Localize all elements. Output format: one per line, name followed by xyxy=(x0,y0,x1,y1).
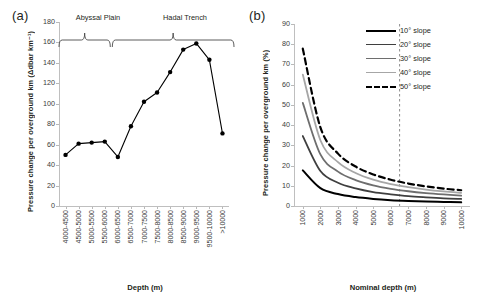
data-point xyxy=(155,90,159,94)
panel-b: (b) Pressure change per overground km (%… xyxy=(239,0,478,301)
panel-b-x-axis-title: Nominal depth (m) xyxy=(294,283,472,292)
y-tick-label: 140 xyxy=(34,59,55,66)
x-tick-label: 6000-6500 xyxy=(114,210,121,243)
legend-swatch xyxy=(366,86,396,88)
x-tick-label: 9000-9500 xyxy=(193,210,200,243)
x-tick-label: 7000-7500 xyxy=(141,210,148,243)
panel-a-x-axis-line xyxy=(59,206,229,207)
brace xyxy=(112,33,234,47)
x-tick-label: 5500-6000 xyxy=(101,210,108,243)
x-tick-label: 1000 xyxy=(299,210,306,226)
series-line xyxy=(303,136,461,199)
y-tick-label: 60 xyxy=(271,81,290,88)
panel-b-legend: 10° slope20° slope30° slope40° slope50° … xyxy=(366,24,471,94)
legend-swatch xyxy=(366,30,396,32)
legend-label: 50° slope xyxy=(400,80,431,94)
y-tick-label: 80 xyxy=(34,121,55,128)
y-tick-label: 30 xyxy=(271,142,290,149)
annotation-label-hadal-trench: Hadal Trench xyxy=(140,13,230,22)
brace xyxy=(59,33,110,47)
legend-item: 40° slope xyxy=(366,66,471,80)
data-point xyxy=(63,153,67,157)
y-tick-label: 100 xyxy=(34,100,55,107)
legend-label: 30° slope xyxy=(400,52,431,66)
legend-item: 10° slope xyxy=(366,24,471,38)
x-tick-label: 7000 xyxy=(405,210,412,226)
legend-item: 30° slope xyxy=(366,52,471,66)
x-tick-label: 4500-5000 xyxy=(75,210,82,243)
figure-container: (a) Pressure change per overground km (Δ… xyxy=(0,0,478,301)
y-tick-label: 40 xyxy=(271,122,290,129)
x-tick-label: 10000 xyxy=(458,210,465,229)
legend-swatch xyxy=(366,72,396,73)
x-tick-label: 7500-8000 xyxy=(154,210,161,243)
panel-a: (a) Pressure change per overground km (Δ… xyxy=(0,0,239,301)
x-tick-label: 4000 xyxy=(352,210,359,226)
y-tick-label: 60 xyxy=(34,141,55,148)
y-tick-label: 180 xyxy=(34,18,55,25)
x-tick-label: 4000-4500 xyxy=(62,210,69,243)
x-tick-label: 8000-8500 xyxy=(167,210,174,243)
x-tick-label: 5000-5500 xyxy=(88,210,95,243)
legend-label: 10° slope xyxy=(400,24,431,38)
y-tick-label: 0 xyxy=(271,202,290,209)
legend-item: 50° slope xyxy=(366,80,471,94)
x-tick-label: >10000 xyxy=(219,210,226,234)
y-tick-label: 0 xyxy=(34,202,55,209)
y-tick-label: 80 xyxy=(271,41,290,48)
data-point xyxy=(220,131,224,135)
legend-label: 40° slope xyxy=(400,66,431,80)
data-point xyxy=(103,139,107,143)
panel-b-letter: (b) xyxy=(249,8,266,23)
x-tick-label: 9000 xyxy=(440,210,447,226)
panel-a-x-axis-title: Depth (m) xyxy=(59,283,231,292)
y-tick-label: 20 xyxy=(271,162,290,169)
panel-a-letter: (a) xyxy=(12,8,29,23)
y-tick-label: 20 xyxy=(34,182,55,189)
data-point xyxy=(129,124,133,128)
panel-b-x-axis-line xyxy=(294,206,470,207)
legend-swatch xyxy=(366,58,396,59)
y-tick-label: 90 xyxy=(271,20,290,27)
y-tick-label: 70 xyxy=(271,61,290,68)
annotation-label-abyssal-plain: Abyssal Plain xyxy=(60,13,136,22)
data-point xyxy=(89,140,93,144)
data-point xyxy=(142,100,146,104)
x-tick-label: 2000 xyxy=(317,210,324,226)
legend-label: 20° slope xyxy=(400,38,431,52)
x-tick-label: 9500-10000 xyxy=(206,210,213,247)
y-tick-label: 40 xyxy=(34,162,55,169)
x-tick-label: 8500-9000 xyxy=(180,210,187,243)
x-tick-label: 6000 xyxy=(387,210,394,226)
panel-a-brace-annotations xyxy=(59,28,235,50)
x-tick-label: 6500-7000 xyxy=(127,210,134,243)
data-point xyxy=(76,141,80,145)
data-point xyxy=(207,58,211,62)
data-point xyxy=(168,70,172,74)
legend-swatch xyxy=(366,44,396,45)
data-point xyxy=(116,155,120,159)
legend-item: 20° slope xyxy=(366,38,471,52)
y-tick-label: 10 xyxy=(271,182,290,189)
x-tick-label: 5000 xyxy=(370,210,377,226)
x-tick-label: 3000 xyxy=(335,210,342,226)
x-tick-label: 8000 xyxy=(423,210,430,226)
y-tick-label: 50 xyxy=(271,101,290,108)
y-tick-label: 120 xyxy=(34,80,55,87)
y-tick-label: 160 xyxy=(34,39,55,46)
